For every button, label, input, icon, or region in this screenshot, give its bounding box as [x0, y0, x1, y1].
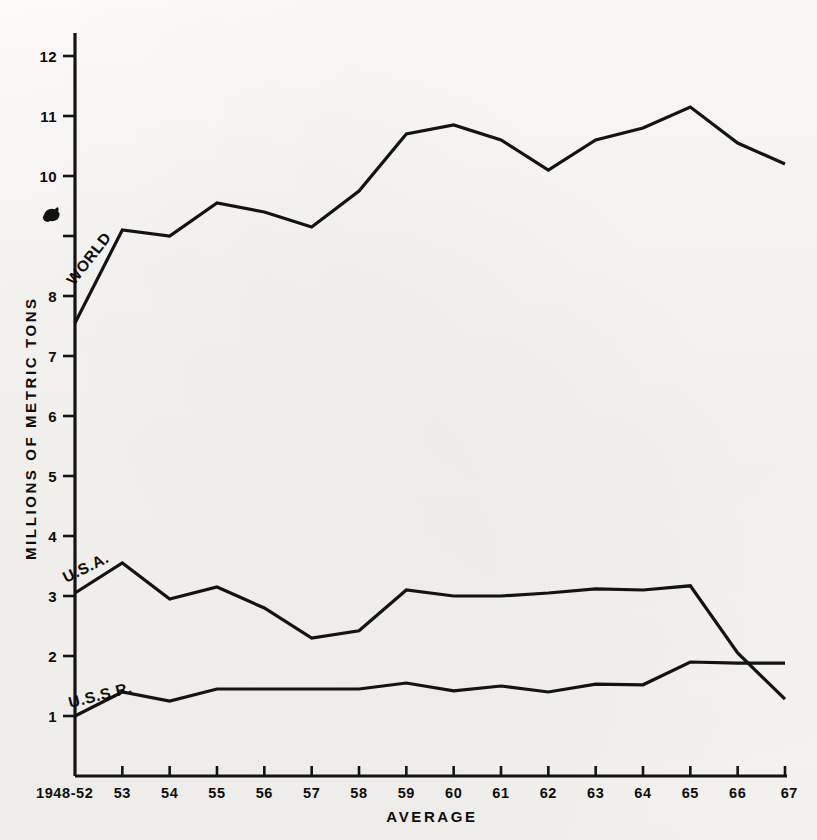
series-label-usa: U.S.A.	[60, 549, 112, 586]
y-tick-label: 11	[40, 108, 57, 125]
y-tick-label: 3	[48, 588, 57, 605]
x-tick-label: 1948-52	[36, 785, 93, 801]
series-line-world	[75, 107, 785, 323]
y-axis: 123456789101112	[40, 48, 76, 725]
x-axis-title: AVERAGE	[386, 808, 477, 825]
x-tick-label: 61	[492, 785, 509, 801]
y-axis-title: MILLIONS OF METRIC TONS	[22, 296, 39, 560]
x-tick-label: 63	[587, 785, 604, 801]
x-tick-label: 58	[350, 785, 367, 801]
y-tick-label: 1	[48, 708, 57, 725]
x-tick-label: 64	[634, 785, 651, 801]
chart-page: 123456789101112 1948-5253545556575859606…	[0, 0, 817, 840]
x-tick-label: 65	[682, 785, 699, 801]
series-line-ussr	[75, 662, 785, 716]
ink-blot	[43, 207, 60, 222]
series-labels: WORLDU.S.A.U.S.S.R.	[60, 229, 134, 711]
x-tick-label: 55	[208, 785, 225, 801]
y-tick-label: 4	[48, 528, 57, 545]
y-tick-label: 12	[40, 48, 58, 65]
series-line-usa	[75, 563, 785, 699]
x-tick-label: 66	[729, 785, 746, 801]
x-tick-label: 57	[303, 785, 320, 801]
y-tick-label: 10	[40, 168, 58, 185]
x-tick-label: 56	[256, 785, 273, 801]
x-tick-label: 60	[445, 785, 462, 801]
y-tick-label: 5	[48, 468, 57, 485]
line-chart: 123456789101112 1948-5253545556575859606…	[0, 0, 817, 840]
y-tick-label: 8	[48, 288, 57, 305]
x-tick-label: 53	[114, 785, 131, 801]
x-tick-label: 67	[781, 785, 798, 801]
y-tick-label: 6	[48, 408, 57, 425]
y-tick-label: 2	[48, 648, 57, 665]
x-tick-label: 59	[398, 785, 415, 801]
axes-group	[75, 33, 787, 776]
x-axis: 1948-52535455565758596061626364656667	[36, 766, 798, 801]
y-tick-label: 7	[48, 348, 57, 365]
series-label-ussr: U.S.S.R.	[67, 679, 134, 711]
x-tick-label: 62	[540, 785, 557, 801]
series-lines	[75, 107, 785, 716]
x-tick-label: 54	[161, 785, 178, 801]
